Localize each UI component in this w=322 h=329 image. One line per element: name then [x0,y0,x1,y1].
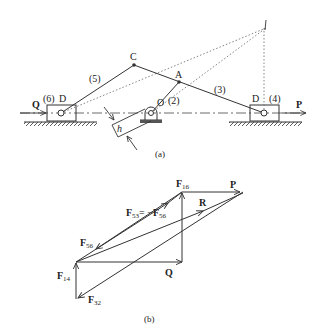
label-p-force: P [296,99,302,110]
joint-d-left [58,110,64,116]
label-link5: (5) [89,73,101,85]
caption-a: (a) [155,149,165,159]
label-p-vector: P [230,179,236,190]
label-f56: F56 [80,237,94,250]
label-a: A [175,69,183,80]
caption-b: (b) [144,314,155,324]
label-f14: F14 [57,270,71,283]
joint-a [177,80,181,84]
label-r-vector: R [199,197,207,208]
label-f32: F32 [88,294,102,307]
vector-f56 [96,192,182,249]
figure-a: C A O (5) (3) (2) (6) D D (4) Q P h (a) [20,20,306,159]
mechanism-diagram: C A O (5) (3) (2) (6) D D (4) Q P h (a) [0,0,322,329]
dimension-h [104,107,151,150]
label-link4: (4) [269,93,281,105]
figure-b [76,192,243,299]
label-h: h [117,123,122,134]
label-link6: (6) [43,93,55,105]
label-f53: F53= −F56 [126,207,167,220]
label-q-force: Q [32,99,40,110]
ground-right [229,122,302,126]
label-c: C [130,51,137,62]
label-f16: F16 [176,178,190,191]
instant-center-mark [265,20,266,30]
vector-r [76,211,203,262]
ground-left [24,122,97,126]
label-d-left: D [59,93,66,104]
label-link3: (3) [214,84,226,96]
joint-c [132,63,136,67]
label-d-right: D [252,93,259,104]
label-q-vector: Q [165,267,173,278]
figure-b-labels: F16 P R F53= −F56 F56 F14 Q F32 (b) [57,178,236,324]
link-3 [134,65,264,113]
label-o: O [157,97,164,108]
joint-d-right [261,110,267,116]
label-link2: (2) [168,95,180,107]
